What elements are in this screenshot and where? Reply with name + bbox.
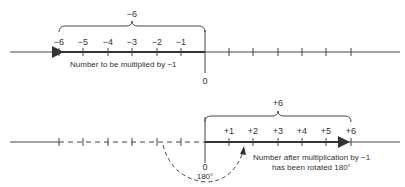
bottom-tick-label: +6: [346, 126, 356, 136]
number-line-diagram: −6 −6 −5 −4 −3 −2 −1 0 Number to be mult…: [0, 0, 405, 187]
bottom-tick-label: +5: [321, 126, 331, 136]
top-zero-label: 0: [202, 76, 207, 86]
top-caption: Number to be multiplied by −1: [70, 60, 177, 69]
top-brace: [59, 21, 205, 32]
bottom-tick-label: +2: [248, 126, 258, 136]
bottom-caption-line1: Number after multiplication by −1: [253, 153, 371, 162]
bottom-tick-label: +4: [297, 126, 307, 136]
top-tick-label: −2: [152, 37, 162, 47]
bottom-number-line: +6 +1 +2 +3 +4 +5 +6 0 180° Number after…: [10, 98, 400, 182]
top-tick-label: −6: [54, 37, 64, 47]
top-number-line: −6 −6 −5 −4 −3 −2 −1 0 Number to be mult…: [10, 9, 400, 86]
bottom-zero-label: 0: [202, 162, 207, 172]
top-brace-label: −6: [127, 9, 137, 19]
top-tick-label: −1: [176, 37, 186, 47]
top-tick-label: −3: [127, 37, 137, 47]
top-tick-label: −4: [103, 37, 113, 47]
angle-label: 180°: [197, 172, 214, 181]
top-tick-label: −5: [78, 37, 88, 47]
bottom-brace: [205, 111, 351, 122]
bottom-tick-label: +1: [224, 126, 234, 136]
bottom-brace-label: +6: [273, 98, 283, 108]
rotation-arrowhead-icon: [240, 146, 246, 155]
bottom-caption-line2: has been rotated 180°: [272, 163, 351, 172]
bottom-tick-label: +3: [273, 126, 283, 136]
